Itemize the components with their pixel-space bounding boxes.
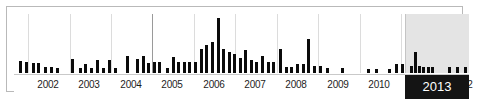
histogram-bar[interactable] (261, 56, 264, 74)
year-tick-label: 2006 (197, 78, 231, 92)
year-tick-label: 2003 (72, 78, 106, 92)
histogram-bar[interactable] (307, 39, 310, 74)
year-axis: 2002200320042005200620072008200920102011… (14, 74, 469, 98)
histogram-bar[interactable] (217, 18, 220, 74)
histogram-bar[interactable] (222, 49, 225, 74)
year-histogram-widget[interactable]: 2002200320042005200620072008200920102011… (0, 0, 470, 98)
gridline-7 (318, 14, 319, 74)
histogram-bar[interactable] (136, 59, 139, 74)
histogram-bar[interactable] (239, 58, 242, 74)
histogram-bar[interactable] (279, 49, 282, 74)
histogram-bar[interactable] (126, 56, 129, 74)
histogram-bar[interactable] (108, 60, 111, 74)
histogram-bar[interactable] (244, 50, 247, 74)
gridline-0 (28, 14, 29, 74)
gridline-2 (111, 14, 112, 74)
histogram-bar[interactable] (211, 42, 214, 74)
year-tick-label: 2009 (321, 78, 355, 92)
selected-year-label[interactable]: 2013 (405, 75, 469, 99)
gridline-8 (360, 14, 361, 74)
year-tick-label: 2010 (362, 78, 396, 92)
year-tick-label: 2004 (114, 78, 148, 92)
year-tick-label: 2005 (155, 78, 189, 92)
histogram-bar[interactable] (228, 52, 231, 74)
year-tick-label: 2002 (31, 78, 65, 92)
year-tick-label: 2008 (279, 78, 313, 92)
histogram-bar[interactable] (250, 60, 253, 74)
histogram-bar[interactable] (142, 56, 145, 74)
year-tick-label: 2007 (238, 78, 272, 92)
histogram-bar[interactable] (200, 49, 203, 74)
gridline-6 (277, 14, 278, 74)
histogram-bar[interactable] (71, 59, 74, 74)
histogram-bar[interactable] (205, 45, 208, 74)
histogram-plot-area[interactable] (14, 14, 469, 74)
histogram-bar[interactable] (172, 57, 175, 74)
histogram-bar[interactable] (233, 54, 236, 74)
histogram-frame: 2002200320042005200620072008200920102011… (6, 6, 463, 92)
histogram-bar[interactable] (414, 52, 417, 74)
histogram-bar[interactable] (96, 60, 99, 74)
